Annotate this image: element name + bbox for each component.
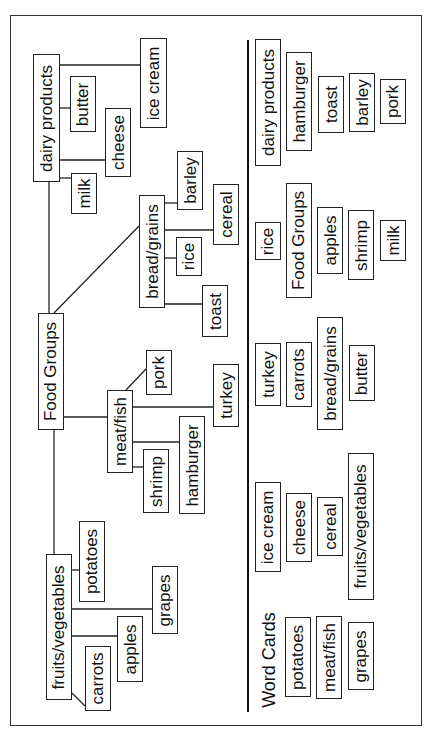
node-barley: barley [177, 151, 203, 210]
node-rice: rice [176, 237, 202, 276]
word-card[interactable]: toast [318, 76, 344, 133]
word-card[interactable]: dairy products [255, 39, 281, 166]
word-card[interactable]: butter [349, 345, 375, 401]
node-ice-cream: ice cream [140, 38, 167, 128]
word-card[interactable]: ice cream [255, 482, 281, 572]
node-milk: milk [71, 173, 97, 214]
word-card[interactable]: shrimp [348, 210, 374, 280]
word-card[interactable]: milk [380, 220, 406, 261]
node-dairy-products: dairy products [33, 54, 60, 182]
node-fruits-vegetables: fruits/vegetables [46, 554, 72, 700]
word-card[interactable]: apples [317, 207, 343, 274]
node-cereal: cereal [213, 184, 239, 245]
word-card[interactable]: fruits/vegetables [348, 453, 374, 600]
word-card[interactable]: carrots [286, 342, 312, 407]
word-card[interactable]: cheese [286, 493, 312, 562]
node-apples: apples [117, 616, 143, 682]
word-card[interactable]: turkey [255, 343, 281, 406]
word-card[interactable]: cereal [317, 497, 343, 556]
word-card[interactable]: Food Groups [286, 183, 312, 298]
node-carrots: carrots [85, 646, 111, 711]
word-card[interactable]: rice [255, 222, 281, 260]
node-food-groups: Food Groups [38, 313, 64, 430]
word-card[interactable]: pork [380, 79, 406, 124]
word-card[interactable]: bread/grains [317, 317, 343, 430]
node-meat-fish: meat/fish [107, 390, 133, 473]
word-card[interactable]: meat/fish [316, 616, 342, 699]
section-divider [247, 40, 249, 712]
word-card[interactable]: barley [349, 73, 375, 132]
word-card[interactable]: grapes [348, 622, 374, 690]
node-grapes: grapes [152, 566, 178, 634]
node-bread-grains: bread/grains [139, 195, 165, 308]
node-hamburger: hamburger [179, 416, 205, 514]
word-card[interactable]: hamburger [286, 52, 312, 151]
node-butter: butter [70, 76, 96, 132]
node-pork: pork [146, 350, 172, 395]
node-toast: toast [202, 285, 228, 337]
word-card[interactable]: potatoes [285, 617, 311, 697]
node-shrimp: shrimp [143, 449, 169, 513]
word-cards-title: Word Cards [255, 608, 282, 712]
node-cheese: cheese [105, 108, 131, 177]
node-potatoes: potatoes [79, 521, 105, 602]
node-turkey: turkey [213, 364, 239, 427]
